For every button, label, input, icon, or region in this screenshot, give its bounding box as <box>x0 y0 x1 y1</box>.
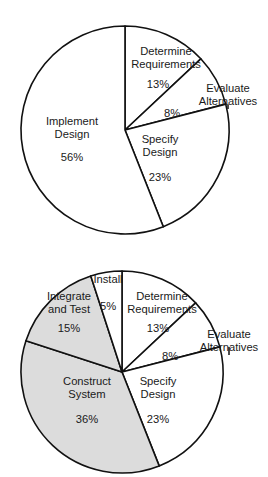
slice-value-label: 13% <box>147 78 169 90</box>
slice-value-label: 23% <box>149 171 171 183</box>
slice-label: Specify <box>140 375 177 387</box>
slice-label: Alternatives <box>199 95 258 107</box>
slice-label: Design <box>55 128 90 140</box>
slice-value-label: 5% <box>100 300 116 312</box>
pie-chart-bottom: DetermineRequirements13%EvaluateAlternat… <box>0 240 268 477</box>
slice-label: Evaluate <box>206 82 250 94</box>
slice-label: Integrate <box>47 290 91 302</box>
slice-label: Design <box>141 388 176 400</box>
slice-value-label: 56% <box>61 151 83 163</box>
slice-value-label: 15% <box>58 322 80 334</box>
slice-label: Determine <box>136 290 188 302</box>
slice-label: Specify <box>142 133 179 145</box>
slice-label: and Test <box>48 303 91 315</box>
slice-value-label: 36% <box>76 413 98 425</box>
slice-label: Construct <box>63 375 112 387</box>
slice-label: Implement <box>46 115 99 127</box>
slice-label: Determine <box>140 45 192 57</box>
slice-value-label: 13% <box>147 322 169 334</box>
slice-label: Design <box>143 146 178 158</box>
slice-label: System <box>68 388 105 400</box>
slice-label: Requirements <box>131 58 201 70</box>
pie-chart-top: DetermineRequirements13%EvaluateAlternat… <box>0 0 268 240</box>
slice-label: Install <box>93 273 122 285</box>
slice-label: Evaluate <box>207 328 251 340</box>
slice-value-label: 8% <box>164 107 180 119</box>
slice-value-label: 23% <box>147 413 169 425</box>
slice-value-label: 8% <box>162 350 178 362</box>
slice-label: Alternatives <box>200 341 259 353</box>
slice-label: Requirements <box>127 303 197 315</box>
